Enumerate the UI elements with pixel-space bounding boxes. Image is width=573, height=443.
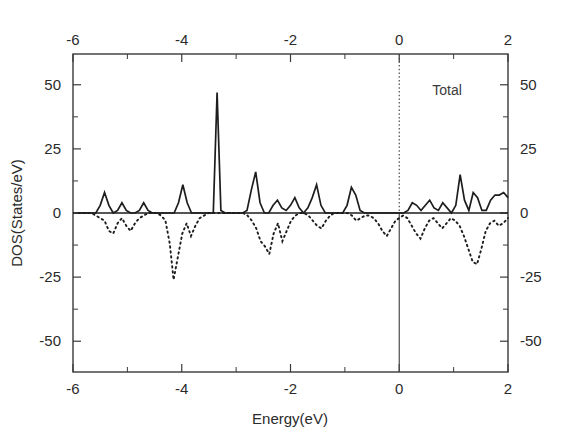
left-tick-label: 50 [44,76,61,93]
right-tick-label: 0 [520,204,528,221]
total-annotation: Total [432,82,462,98]
left-tick-label: 25 [44,140,61,157]
right-tick-label: 25 [520,140,537,157]
bottom-tick-label: -2 [284,380,297,397]
bottom-axis-ticks: -6-4-202 [66,364,512,397]
left-tick-label: -25 [39,268,61,285]
dos-chart-figure: -6-4-202 -6-4-202 50250-25-50 50250-25-5… [0,0,573,443]
series-spin-up [78,92,508,213]
top-tick-label: -6 [66,31,79,48]
top-tick-label: 0 [395,31,403,48]
x-axis-title: Energy(eV) [252,410,328,427]
top-axis-ticks: -6-4-202 [66,31,512,62]
y-axis-title: DOS(States/eV) [8,159,25,267]
dos-plot-svg: -6-4-202 -6-4-202 50250-25-50 50250-25-5… [0,0,573,443]
left-tick-label: -50 [39,332,61,349]
right-tick-label: -25 [520,268,542,285]
bottom-tick-label: 2 [504,380,512,397]
series-spin-down [78,213,508,280]
bottom-tick-label: -4 [175,380,188,397]
top-tick-label: -4 [175,31,188,48]
left-tick-label: 0 [53,204,61,221]
bottom-tick-label: 0 [395,380,403,397]
top-tick-label: -2 [284,31,297,48]
bottom-tick-label: -6 [66,380,79,397]
top-tick-label: 2 [504,31,512,48]
right-tick-label: 50 [520,76,537,93]
reference-lines [73,54,508,372]
right-tick-label: -50 [520,332,542,349]
